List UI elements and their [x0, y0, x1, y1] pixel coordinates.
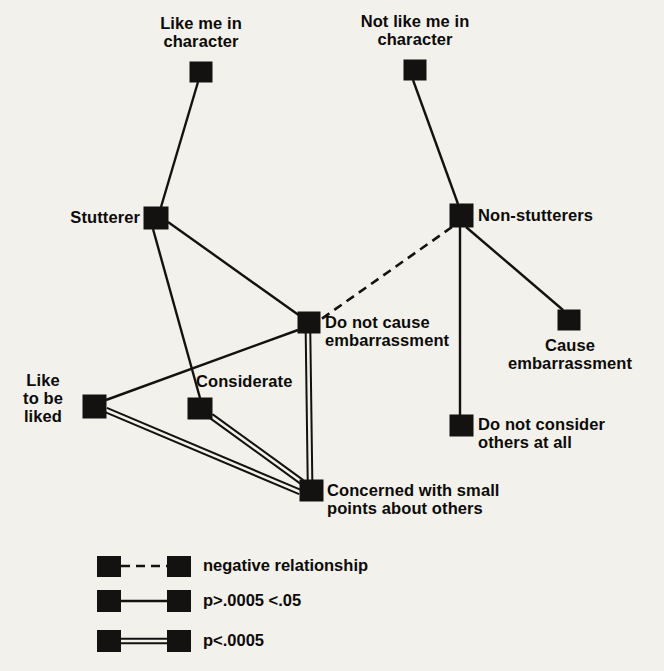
legend-label-strong: p<.0005: [203, 631, 264, 649]
legend-strong-square-1: [97, 630, 121, 652]
legend-item-moderate: [97, 590, 191, 612]
legend-moderate-square-2: [167, 590, 191, 612]
legend-negative-square-2: [167, 556, 191, 577]
legend-moderate-square-1: [97, 590, 121, 612]
legend-item-negative: [97, 556, 191, 577]
legend-negative-square-1: [97, 556, 121, 577]
legend-strong-square-2: [167, 630, 191, 652]
legend-item-strong: [97, 630, 191, 652]
legend-label-negative: negative relationship: [203, 556, 368, 574]
legend-label-moderate: p>.0005 <.05: [203, 591, 301, 609]
legend-group: [97, 556, 191, 652]
network-diagram: Like me in characterNot like me in chara…: [0, 0, 664, 671]
